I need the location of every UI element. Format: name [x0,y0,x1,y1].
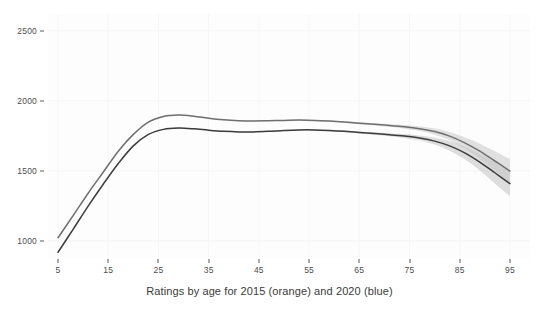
y-tick-mark [40,30,44,31]
x-tick-mark [409,259,410,263]
x-tick-label: 55 [304,265,314,275]
x-tick-label: 85 [455,265,465,275]
x-tick-label: 95 [505,265,515,275]
x-tick-mark [158,259,159,263]
x-tick-mark [359,259,360,263]
y-tick-label: 2000 [17,96,37,106]
y-tick-label: 1500 [17,166,37,176]
x-tick-label: 75 [405,265,415,275]
y-tick-mark [40,240,44,241]
y-tick-mark [40,100,44,101]
chart-root: 1000150020002500 5152535455565758595 Rat… [0,0,539,311]
y-tick-mark [40,170,44,171]
x-tick-label: 15 [103,265,113,275]
y-axis: 1000150020002500 [0,14,48,259]
plot-panel [48,14,530,259]
x-tick-label: 45 [254,265,264,275]
x-tick-label: 5 [56,265,61,275]
x-tick-mark [309,259,310,263]
x-tick-label: 25 [154,265,164,275]
x-tick-mark [58,259,59,263]
y-tick-label: 1000 [17,236,37,246]
x-axis: 5152535455565758595 [48,259,530,283]
x-tick-mark [509,259,510,263]
x-tick-label: 65 [354,265,364,275]
x-tick-mark [108,259,109,263]
y-tick-label: 2500 [17,26,37,36]
axis-title: Ratings by age for 2015 (orange) and 202… [0,285,539,297]
series-line-0 [58,115,510,238]
x-tick-label: 35 [204,265,214,275]
confidence-band-1 [58,128,510,253]
x-tick-mark [258,259,259,263]
x-tick-mark [208,259,209,263]
x-tick-mark [459,259,460,263]
plot-area [48,14,530,259]
